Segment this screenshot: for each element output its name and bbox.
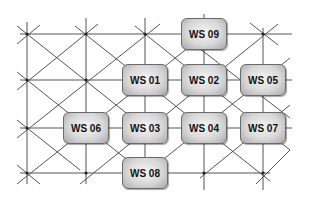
ws03-label: WS 03 (130, 123, 160, 134)
workstation-ws06[interactable]: WS 06 (63, 112, 109, 144)
ws02-label: WS 02 (189, 75, 219, 86)
workstation-ws02[interactable]: WS 02 (181, 64, 227, 96)
workstation-ws08[interactable]: WS 08 (122, 157, 168, 189)
ws07-label: WS 07 (248, 123, 278, 134)
workstation-ws05[interactable]: WS 05 (240, 64, 286, 96)
workstation-ws07[interactable]: WS 07 (240, 112, 286, 144)
workstation-ws03[interactable]: WS 03 (122, 112, 168, 144)
ws01-label: WS 01 (130, 75, 160, 86)
workstation-ws01[interactable]: WS 01 (122, 64, 168, 96)
ws08-label: WS 08 (130, 168, 160, 179)
workstation-ws04[interactable]: WS 04 (181, 112, 227, 144)
ws05-label: WS 05 (248, 75, 278, 86)
workstation-ws09[interactable]: WS 09 (181, 18, 227, 50)
ws04-label: WS 04 (189, 123, 219, 134)
ws06-label: WS 06 (71, 123, 101, 134)
ws09-label: WS 09 (189, 29, 219, 40)
